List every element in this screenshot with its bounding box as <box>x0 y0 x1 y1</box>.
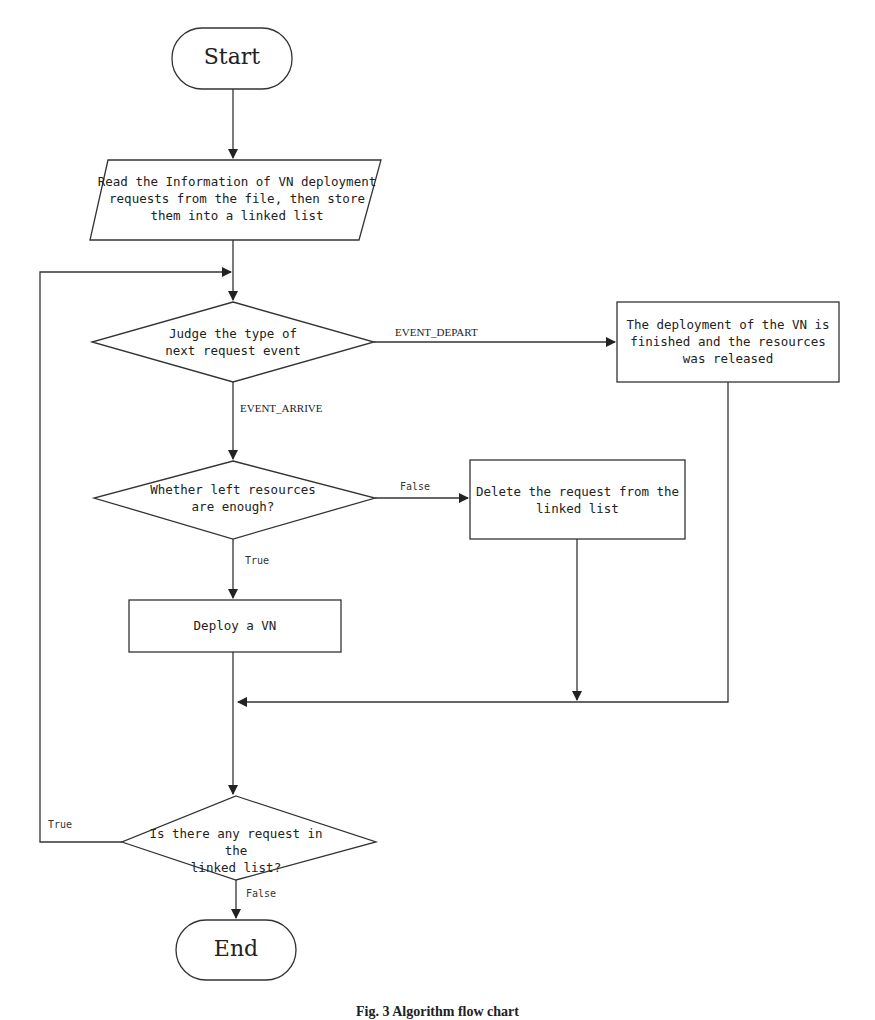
judge-label: Judge the type of next request event <box>133 325 333 359</box>
read-label: Read the Information of VN deployment re… <box>96 173 378 224</box>
deploy-label: Deploy a VN <box>129 617 341 634</box>
edge-label-any-true: True <box>48 819 72 830</box>
delete-label: Delete the request from the linked list <box>470 483 685 517</box>
enough-label: Whether left resources are enough? <box>133 481 333 515</box>
start-label: Start <box>172 44 292 69</box>
edge-label-event-depart: EVENT_DEPART <box>395 326 478 338</box>
edge-label-event-arrive: EVENT_ARRIVE <box>240 402 323 414</box>
released-label: The deployment of the VN is finished and… <box>617 316 839 367</box>
any-request-label: Is there any request in the linked list? <box>136 825 336 876</box>
edge-label-enough-true: True <box>245 555 269 566</box>
end-label: End <box>176 936 296 961</box>
edge-label-any-false: False <box>246 888 276 899</box>
edge-label-enough-false: False <box>400 481 430 492</box>
figure-caption: Fig. 3 Algorithm flow chart <box>0 1004 875 1020</box>
